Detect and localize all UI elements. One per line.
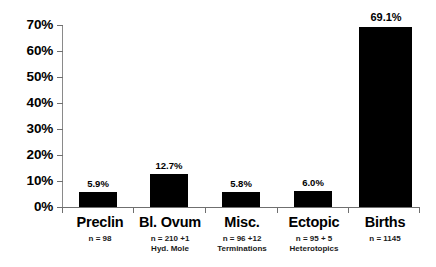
y-tick-label-text: 10% (5, 174, 53, 188)
bar-bl-ovum (150, 174, 188, 207)
x-axis-tick (62, 207, 63, 213)
y-axis-tick (57, 25, 63, 26)
y-tick-label-text: 20% (5, 148, 53, 162)
y-tick-label-text: 60% (5, 44, 53, 58)
bar-value-ectopic: 6.0% (283, 178, 343, 188)
y-tick-label-text: 0% (5, 200, 53, 214)
y-axis-tick (57, 181, 63, 182)
x-axis-tick (277, 207, 278, 213)
x-axis-line (62, 207, 420, 208)
category-subtitle-line2: Heterotopics (270, 244, 358, 254)
bar-value-bl-ovum: 12.7% (139, 161, 199, 171)
x-axis-tick (348, 207, 349, 213)
y-axis-tick (57, 103, 63, 104)
category-name: Births (344, 214, 426, 231)
bar-misc (222, 192, 260, 207)
y-tick-label-text: 70% (5, 18, 53, 32)
y-axis-tick (57, 77, 63, 78)
bar-value-preclin: 5.9% (68, 179, 128, 189)
x-axis-tick (133, 207, 134, 213)
y-axis-tick (57, 51, 63, 52)
category-subtitle-line1: n = 1145 (344, 234, 426, 244)
bar-births (359, 27, 412, 207)
y-tick-label-text: 30% (5, 122, 53, 136)
bar-value-births: 69.1% (355, 12, 417, 23)
bar-preclin (79, 192, 117, 207)
category-label-births: Births n = 1145 (344, 214, 426, 244)
x-axis-tick (419, 207, 420, 213)
y-axis-tick (57, 155, 63, 156)
bar-ectopic (294, 191, 332, 207)
y-axis-tick (57, 129, 63, 130)
x-axis-tick (205, 207, 206, 213)
bar-chart: 70% 60% 50% 40% 30% 20% 10% 0% (0, 0, 436, 267)
y-tick-label-text: 50% (5, 70, 53, 84)
y-tick-label-text: 40% (5, 96, 53, 110)
bar-value-misc: 5.8% (211, 179, 271, 189)
